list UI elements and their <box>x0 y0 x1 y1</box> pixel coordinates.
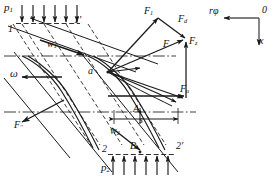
label-station-2-prime: 2' <box>176 141 183 151</box>
label-F-double-prime: F'' <box>14 120 23 130</box>
point-B-tick <box>139 151 142 154</box>
label-w1: w1 <box>47 39 57 49</box>
label-omega: ω <box>10 68 18 79</box>
label-F1: F1 <box>144 6 153 16</box>
label-station-1: 1 <box>8 24 13 34</box>
label-Fd: Fd <box>178 14 187 24</box>
label-point-a: a <box>88 66 93 76</box>
label-axis-origin: 0 <box>262 5 267 15</box>
label-point-A: A <box>133 104 139 114</box>
label-w2: w2 <box>110 126 120 136</box>
force-vector-bundle[interactable] <box>108 18 183 106</box>
label-p2: p2 <box>101 162 110 174</box>
F-double-prime-vector[interactable] <box>22 100 64 122</box>
label-s: s <box>139 115 143 125</box>
top-pressure-arrows <box>22 5 77 22</box>
bottom-pressure-arrows <box>113 156 168 175</box>
label-p1: p1 <box>4 2 13 14</box>
label-Fu: Fu <box>180 84 189 94</box>
figure-canvas: p1 1 1' w1 ω a F1 Fd F Fz Fu F'' A s w2 … <box>0 0 273 179</box>
label-Fz: Fz <box>189 36 198 46</box>
coordinate-axes <box>224 18 259 45</box>
label-point-B: B <box>130 141 136 151</box>
diagram-vector-graphics <box>0 0 273 179</box>
blade-profiles <box>22 56 165 150</box>
label-F: F <box>163 39 169 49</box>
flow-direction-lines <box>8 18 158 72</box>
label-station-2: 2 <box>102 144 107 154</box>
point-a-node <box>106 70 109 73</box>
pitch-dimension-s <box>114 108 178 124</box>
label-axis-x: x <box>259 36 263 46</box>
label-station-1-prime: 1' <box>74 15 81 25</box>
label-axis-rphi: rφ <box>209 6 218 16</box>
